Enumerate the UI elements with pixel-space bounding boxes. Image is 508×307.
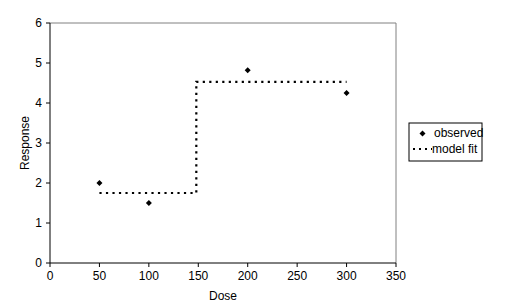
legend: observed model fit — [409, 123, 483, 161]
legend-model-label: model fit — [432, 142, 478, 156]
x-tick-label: 50 — [93, 269, 107, 283]
x-axis-title: Dose — [209, 289, 237, 303]
y-tick-label: 1 — [35, 216, 42, 230]
y-tick-label: 4 — [35, 96, 42, 110]
y-tick-label: 5 — [35, 56, 42, 70]
x-tick-label: 150 — [188, 269, 208, 283]
y-axis-ticks: 0123456 — [35, 16, 50, 270]
x-tick-label: 200 — [238, 269, 258, 283]
observed-points — [96, 67, 349, 206]
observed-point-marker — [146, 200, 152, 206]
x-tick-label: 250 — [287, 269, 307, 283]
y-tick-label: 0 — [35, 256, 42, 270]
observed-point-marker — [245, 67, 251, 73]
y-tick-label: 2 — [35, 176, 42, 190]
legend-observed-label: observed — [434, 126, 483, 140]
x-tick-label: 350 — [386, 269, 406, 283]
x-tick-label: 100 — [139, 269, 159, 283]
model-fit-line — [99, 82, 346, 193]
model-fit-polyline — [99, 82, 346, 193]
observed-point-marker — [96, 180, 102, 186]
y-tick-label: 3 — [35, 136, 42, 150]
y-axis-title: Response — [18, 116, 32, 170]
plot-area — [50, 23, 396, 263]
y-tick-label: 6 — [35, 16, 42, 30]
x-tick-label: 300 — [337, 269, 357, 283]
x-tick-label: 0 — [47, 269, 54, 283]
observed-point-marker — [344, 90, 350, 96]
dose-response-chart: 0123456 050100150200250300350 Dose Respo… — [0, 0, 508, 307]
x-axis-ticks: 050100150200250300350 — [47, 263, 407, 283]
